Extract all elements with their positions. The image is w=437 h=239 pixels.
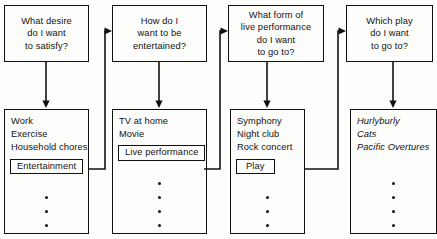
ellipsis-dot	[266, 196, 269, 199]
ellipsis-dots-col-4	[351, 182, 436, 227]
options-box-col-1: Work Exercise Household chores Entertain…	[4, 109, 89, 234]
list-item[interactable]: Work	[11, 115, 88, 128]
question-text-col-4: Which play do I want to go to?	[363, 15, 415, 52]
options-box-col-4: Hurlyburly Cats Pacific Overtures	[350, 109, 437, 234]
ellipsis-dot	[392, 210, 395, 213]
arrowhead-down-col4	[389, 101, 396, 109]
ellipsis-dot	[392, 196, 395, 199]
arrowhead-right-col3	[221, 27, 229, 34]
arrowhead-right-col4	[339, 27, 347, 34]
flowchart-figure: What desire do I want to satisfy? Work E…	[0, 0, 437, 239]
question-box-col-3: What form of live performance do I want …	[228, 5, 324, 62]
selected-option-col-2[interactable]: Live performance	[118, 145, 205, 161]
ellipsis-dot	[266, 210, 269, 213]
arrowhead-down-col2	[155, 101, 162, 109]
options-box-col-2: TV at home Movie Live performance	[112, 109, 207, 234]
ellipsis-dot	[158, 196, 161, 199]
arrowheads	[42, 27, 396, 108]
arrowhead-right-col2	[105, 27, 113, 34]
option-list-col-3: Symphony Night club Rock concert Play	[231, 115, 304, 175]
question-box-col-1: What desire do I want to satisfy?	[4, 5, 89, 62]
list-item[interactable]: Night club	[237, 128, 304, 141]
list-item[interactable]: Exercise	[11, 128, 88, 141]
ellipsis-dot	[266, 224, 269, 227]
arrowhead-down-col1	[42, 101, 49, 109]
list-item[interactable]: Symphony	[237, 115, 304, 128]
selected-option-col-1[interactable]: Entertainment	[10, 159, 83, 175]
option-list-col-1: Work Exercise Household chores Entertain…	[5, 115, 88, 175]
option-list-col-4: Hurlyburly Cats Pacific Overtures	[351, 115, 436, 155]
ellipsis-dots-col-2	[113, 182, 206, 227]
question-text-col-1: What desire do I want to satisfy?	[18, 15, 75, 52]
question-box-col-4: Which play do I want to go to?	[346, 5, 433, 62]
list-item[interactable]: Pacific Overtures	[357, 141, 436, 154]
arrowhead-down-col3	[263, 101, 270, 109]
ellipsis-dot	[392, 224, 395, 227]
ellipsis-dots-col-1	[5, 196, 88, 227]
ellipsis-dot	[45, 196, 48, 199]
option-list-col-2: TV at home Movie Live performance	[113, 115, 206, 162]
ellipsis-dot	[158, 224, 161, 227]
list-item[interactable]: Rock concert	[237, 141, 304, 154]
connector-elbow-col1-col2	[88, 31, 108, 169]
ellipsis-dot	[158, 182, 161, 185]
ellipsis-dot	[45, 224, 48, 227]
question-text-col-2: How do I want to be entertained?	[130, 15, 189, 52]
list-item[interactable]: Hurlyburly	[357, 115, 436, 128]
question-text-col-3: What form of live performance do I want …	[238, 9, 314, 58]
connector-elbow-col2-col3	[204, 31, 224, 169]
options-box-col-3: Symphony Night club Rock concert Play	[230, 109, 305, 234]
list-item[interactable]: Cats	[357, 128, 436, 141]
ellipsis-dot	[45, 210, 48, 213]
list-item[interactable]: Household chores	[11, 141, 88, 154]
list-item[interactable]: TV at home	[119, 115, 206, 128]
ellipsis-dots-col-3	[231, 196, 304, 227]
selected-option-col-3[interactable]: Play	[236, 159, 275, 175]
list-item[interactable]: Movie	[119, 128, 206, 141]
ellipsis-dot	[158, 210, 161, 213]
ellipsis-dot	[392, 182, 395, 185]
question-box-col-2: How do I want to be entertained?	[112, 5, 207, 62]
